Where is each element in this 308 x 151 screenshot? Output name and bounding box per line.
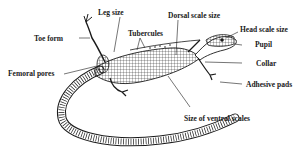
label-size-of-ventral-scales: Size of ventral scales — [184, 115, 250, 123]
label-femoral-pores: Femoral pores — [8, 70, 54, 78]
label-adhesive-pads: Adhesive pads — [246, 81, 292, 89]
eye — [220, 38, 224, 42]
label-leg-size: Leg size — [98, 9, 124, 17]
label-toe-form: Toe form — [34, 35, 63, 43]
label-head-scale-size: Head scale size — [240, 26, 288, 34]
lizard-diagram: Leg size Toe form Tubercules Dorsal scal… — [0, 0, 308, 151]
label-pupil: Pupil — [255, 41, 272, 49]
body — [95, 48, 200, 84]
label-tubercules: Tubercules — [128, 30, 163, 38]
label-dorsal-scale-size: Dorsal scale size — [168, 12, 220, 20]
label-collar: Collar — [256, 60, 276, 68]
